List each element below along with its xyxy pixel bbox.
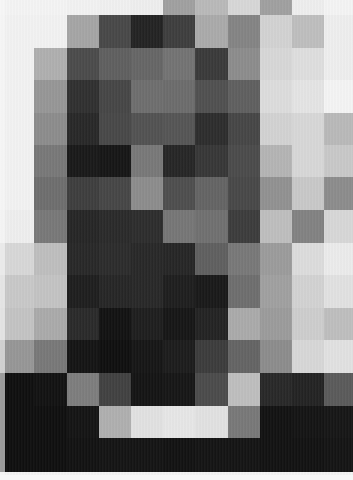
mosaic-tile	[228, 406, 260, 438]
mosaic-tile	[163, 48, 195, 80]
mosaic-tile	[228, 0, 260, 15]
mosaic-tile	[163, 177, 195, 210]
mosaic-tile	[260, 373, 292, 406]
mosaic-tile	[228, 438, 260, 472]
mosaic-tile	[0, 0, 34, 15]
mosaic-tile	[260, 145, 292, 177]
mosaic-tile	[260, 438, 292, 472]
mosaic-tile	[67, 48, 99, 80]
mosaic-tile	[67, 80, 99, 113]
mosaic-tile	[0, 48, 34, 80]
mosaic-tile	[228, 113, 260, 145]
mosaic-tile	[292, 0, 324, 15]
mosaic-tile	[163, 373, 195, 406]
mosaic-tile	[67, 210, 99, 243]
mosaic-tile	[131, 80, 163, 113]
mosaic-tile	[34, 113, 67, 145]
mosaic-tile	[292, 308, 324, 340]
mosaic-tile	[131, 145, 163, 177]
mosaic-tile	[292, 438, 324, 472]
mosaic-tile	[0, 80, 34, 113]
pixelated-portrait-mosaic	[0, 0, 353, 480]
mosaic-tile	[292, 373, 324, 406]
mosaic-tile	[228, 275, 260, 308]
mosaic-tile	[195, 406, 228, 438]
mosaic-tile	[324, 275, 353, 308]
mosaic-tile	[228, 48, 260, 80]
mosaic-tile	[67, 373, 99, 406]
mosaic-tile	[34, 145, 67, 177]
mosaic-tile	[228, 15, 260, 48]
mosaic-tile	[195, 0, 228, 15]
mosaic-tile	[260, 275, 292, 308]
mosaic-tile	[0, 308, 34, 340]
mosaic-tile	[67, 275, 99, 308]
mosaic-tile	[131, 113, 163, 145]
mosaic-tile	[99, 145, 131, 177]
mosaic-tile	[260, 340, 292, 373]
mosaic-tile	[292, 113, 324, 145]
mosaic-tile	[99, 340, 131, 373]
mosaic-tile	[131, 177, 163, 210]
mosaic-tile	[0, 373, 34, 406]
mosaic-tile	[34, 406, 67, 438]
mosaic-tile	[324, 177, 353, 210]
mosaic-tile	[34, 373, 67, 406]
mosaic-tile	[163, 275, 195, 308]
mosaic-tile	[195, 210, 228, 243]
mosaic-tile	[99, 406, 131, 438]
mosaic-tile	[0, 15, 34, 48]
mosaic-tile	[163, 80, 195, 113]
mosaic-tile	[99, 48, 131, 80]
mosaic-tile	[67, 243, 99, 275]
mosaic-tile	[0, 275, 34, 308]
mosaic-tile	[260, 177, 292, 210]
mosaic-tile	[131, 15, 163, 48]
mosaic-tile	[99, 438, 131, 472]
mosaic-tile	[195, 177, 228, 210]
mosaic-tile	[67, 438, 99, 472]
mosaic-tile	[292, 243, 324, 275]
mosaic-tile	[195, 48, 228, 80]
mosaic-tile	[34, 308, 67, 340]
mosaic-tile	[0, 113, 34, 145]
mosaic-tile	[34, 438, 67, 472]
mosaic-tile	[0, 243, 34, 275]
mosaic-tile	[163, 308, 195, 340]
mosaic-tile	[99, 80, 131, 113]
mosaic-tile	[131, 308, 163, 340]
mosaic-tile	[163, 243, 195, 275]
mosaic-tile	[260, 406, 292, 438]
mosaic-tile	[292, 145, 324, 177]
mosaic-tile	[99, 373, 131, 406]
mosaic-tile	[0, 177, 34, 210]
mosaic-tile	[260, 308, 292, 340]
mosaic-tile	[99, 113, 131, 145]
bottom-margin	[0, 475, 353, 480]
mosaic-tile	[34, 210, 67, 243]
mosaic-tile	[260, 113, 292, 145]
mosaic-tile	[228, 373, 260, 406]
mosaic-tile	[131, 210, 163, 243]
mosaic-tile	[292, 406, 324, 438]
mosaic-tile	[34, 243, 67, 275]
mosaic-tile	[195, 113, 228, 145]
mosaic-tile	[99, 0, 131, 15]
mosaic-tile	[324, 406, 353, 438]
mosaic-tile	[228, 145, 260, 177]
mosaic-tile	[67, 308, 99, 340]
mosaic-tile	[228, 340, 260, 373]
mosaic-tile	[195, 243, 228, 275]
mosaic-tile	[0, 145, 34, 177]
mosaic-tile	[324, 113, 353, 145]
mosaic-tile	[131, 373, 163, 406]
mosaic-tile	[131, 243, 163, 275]
mosaic-tile	[260, 243, 292, 275]
mosaic-tile	[260, 80, 292, 113]
mosaic-tile	[99, 275, 131, 308]
mosaic-tile	[228, 308, 260, 340]
mosaic-tile	[292, 275, 324, 308]
mosaic-tile	[195, 340, 228, 373]
mosaic-tile	[324, 210, 353, 243]
mosaic-tile	[228, 80, 260, 113]
